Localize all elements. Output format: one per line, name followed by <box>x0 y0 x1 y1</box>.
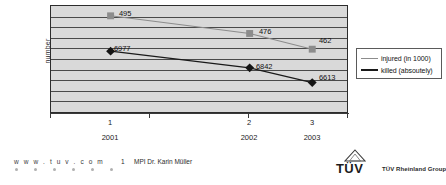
series-marker-injured <box>309 46 316 53</box>
legend-item-killed[interactable]: killed (absoutely) <box>359 64 439 76</box>
x-axis-label-3: 3 <box>292 118 332 127</box>
x-axis-year-1: 2001 <box>87 133 133 142</box>
data-label-killed-3: 6613 <box>319 73 335 82</box>
data-label-injured-3: 462 <box>319 36 331 45</box>
data-label-killed-1: 6977 <box>114 44 130 53</box>
legend-swatch-killed <box>361 69 378 70</box>
chart-plot-area: 495 476 462 6977 6842 6613 <box>50 5 348 113</box>
x-axis-tick <box>347 113 348 118</box>
series-line-injured <box>111 16 313 49</box>
x-axis-label-2: 2 <box>229 118 269 127</box>
series-marker-injured <box>246 30 253 37</box>
tuv-wordmark: TÜV <box>336 161 363 176</box>
page-number: 1 <box>121 158 125 165</box>
legend-label-killed: killed (absoutely) <box>381 67 433 74</box>
chart-legend: injured (in 1000) killed (absoutely) <box>356 48 442 79</box>
tuv-group-text: TÜV Rheinland Group <box>382 166 446 172</box>
x-axis-label-1: 1 <box>90 118 130 127</box>
data-label-injured-2: 476 <box>259 27 271 36</box>
series-overlay <box>51 6 347 112</box>
series-marker-killed <box>245 63 254 72</box>
website-url[interactable]: w w w . t u v . c o m <box>14 158 104 165</box>
series-marker-killed <box>308 78 317 87</box>
tuv-logo: TÜV TÜV Rheinland Group <box>330 148 442 182</box>
data-label-killed-2: 6842 <box>256 62 272 71</box>
legend-label-injured: injured (in 1000) <box>381 55 431 62</box>
decorative-dots <box>15 168 127 174</box>
series-marker-injured <box>107 12 114 19</box>
author-credit: MPI Dr. Karin Müller <box>134 158 192 165</box>
x-axis-year-2: 2002 <box>226 133 272 142</box>
data-label-injured-1: 495 <box>119 9 131 18</box>
x-axis-tick <box>50 113 51 118</box>
x-axis-tick <box>149 113 150 118</box>
x-axis-year-3: 2003 <box>289 133 335 142</box>
legend-item-injured[interactable]: injured (in 1000) <box>359 52 439 64</box>
legend-swatch-injured <box>361 58 378 59</box>
series-line-killed <box>111 51 313 82</box>
